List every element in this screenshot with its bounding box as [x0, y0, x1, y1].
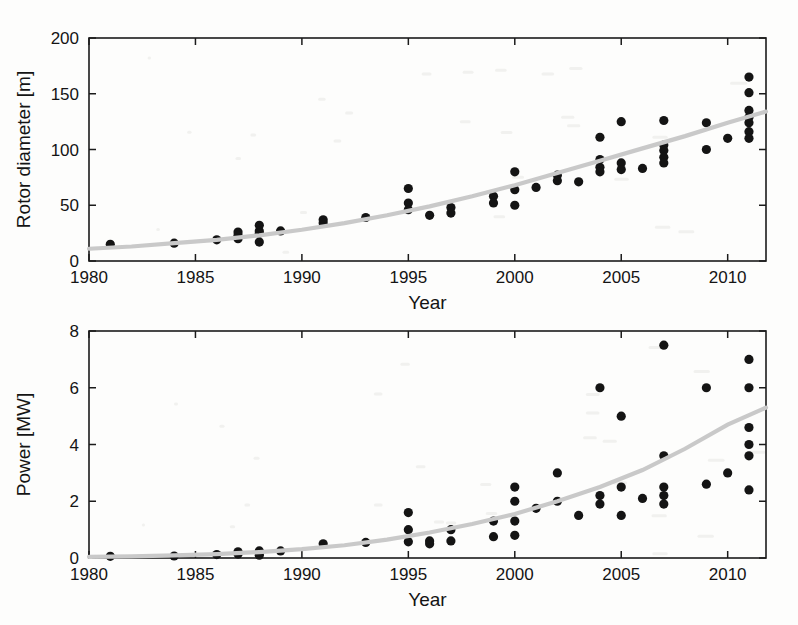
paper-speck [583, 436, 597, 439]
paper-speck [480, 483, 491, 486]
paper-speck [434, 521, 444, 524]
data-point [744, 485, 753, 494]
paper-speck [400, 363, 409, 366]
y-axis-title: Power [MW] [13, 393, 34, 496]
data-point [595, 499, 604, 508]
paper-speck [486, 512, 497, 515]
data-point [255, 237, 264, 246]
data-point [744, 134, 753, 143]
paper-speck [142, 523, 145, 526]
data-point [404, 508, 413, 517]
paper-speck [463, 71, 474, 74]
paper-speck [603, 440, 617, 443]
data-point [595, 383, 604, 392]
x-tick-label: 1990 [283, 268, 321, 287]
data-point [617, 412, 626, 421]
power-chart-panel: 198019851990199520002005201002468YearPow… [0, 312, 798, 625]
data-point [702, 145, 711, 154]
data-point [638, 164, 647, 173]
y-axis-title: Rotor diameter [m] [13, 71, 34, 228]
paper-speck [542, 73, 555, 76]
data-point [744, 72, 753, 81]
y-tick-label: 0 [70, 549, 79, 568]
power-chart-svg: 198019851990199520002005201002468YearPow… [0, 312, 798, 625]
y-tick-label: 100 [51, 141, 79, 160]
data-point [659, 158, 668, 167]
paper-speck [652, 514, 667, 517]
data-point [744, 88, 753, 97]
paper-speck [283, 251, 290, 254]
paper-speck [730, 82, 747, 85]
paper-speck [345, 112, 353, 115]
y-tick-label: 0 [70, 252, 79, 271]
paper-speck [586, 393, 600, 396]
data-point [617, 165, 626, 174]
paper-speck [460, 120, 471, 123]
data-point [744, 451, 753, 460]
data-point [510, 531, 519, 540]
x-tick-label: 1990 [283, 565, 321, 584]
data-point [510, 167, 519, 176]
x-axis-title: Year [408, 292, 447, 312]
data-point [617, 482, 626, 491]
data-point [744, 440, 753, 449]
x-tick-label: 1985 [177, 268, 215, 287]
paper-speck [567, 124, 580, 127]
data-point [595, 491, 604, 500]
paper-speck [422, 73, 432, 76]
data-point [446, 536, 455, 545]
paper-speck [416, 465, 426, 468]
paper-speck [446, 522, 456, 525]
data-point [744, 423, 753, 432]
paper-speck [230, 525, 235, 528]
x-tick-label: 2005 [602, 268, 640, 287]
data-point [510, 482, 519, 491]
data-point [659, 116, 668, 125]
data-point [723, 468, 732, 477]
data-point [510, 517, 519, 526]
paper-speck [708, 459, 725, 462]
y-tick-label: 6 [70, 379, 79, 398]
wind-turbine-growth-figure: 1980198519901995200020052010050100150200… [0, 0, 798, 625]
paper-speck [694, 370, 710, 373]
x-tick-label: 1995 [389, 268, 427, 287]
paper-speck [174, 402, 178, 405]
y-tick-label: 4 [70, 436, 79, 455]
paper-speck [495, 69, 507, 72]
paper-speck [494, 215, 506, 218]
data-point [425, 211, 434, 220]
rotor-diameter-chart-panel: 1980198519901995200020052010050100150200… [0, 0, 798, 312]
paper-speck [569, 67, 582, 70]
data-point [659, 341, 668, 350]
x-tick-label: 2000 [496, 268, 534, 287]
data-point [574, 511, 583, 520]
y-tick-label: 150 [51, 85, 79, 104]
data-point [744, 383, 753, 392]
paper-speck [561, 116, 574, 119]
plot-frame [89, 331, 766, 558]
data-point [659, 499, 668, 508]
paper-speck [219, 425, 224, 428]
paper-speck [614, 178, 628, 181]
rotor-diameter-chart-svg: 1980198519901995200020052010050100150200… [0, 0, 798, 312]
data-point [659, 491, 668, 500]
x-tick-label: 1985 [177, 565, 215, 584]
x-tick-label: 2000 [496, 565, 534, 584]
data-point [595, 167, 604, 176]
data-point [659, 482, 668, 491]
paper-speck [374, 504, 383, 507]
x-tick-label: 2005 [602, 565, 640, 584]
x-axis-title: Year [408, 589, 447, 610]
paper-speck [187, 131, 191, 134]
data-point [744, 355, 753, 364]
y-tick-label: 8 [70, 322, 79, 341]
paper-speck [678, 230, 694, 233]
data-point [702, 480, 711, 489]
data-point [723, 134, 732, 143]
paper-speck [334, 139, 342, 142]
data-point [617, 117, 626, 126]
data-point [638, 494, 647, 503]
data-point [531, 183, 540, 192]
paper-speck [652, 552, 667, 555]
paper-speck [148, 57, 151, 60]
